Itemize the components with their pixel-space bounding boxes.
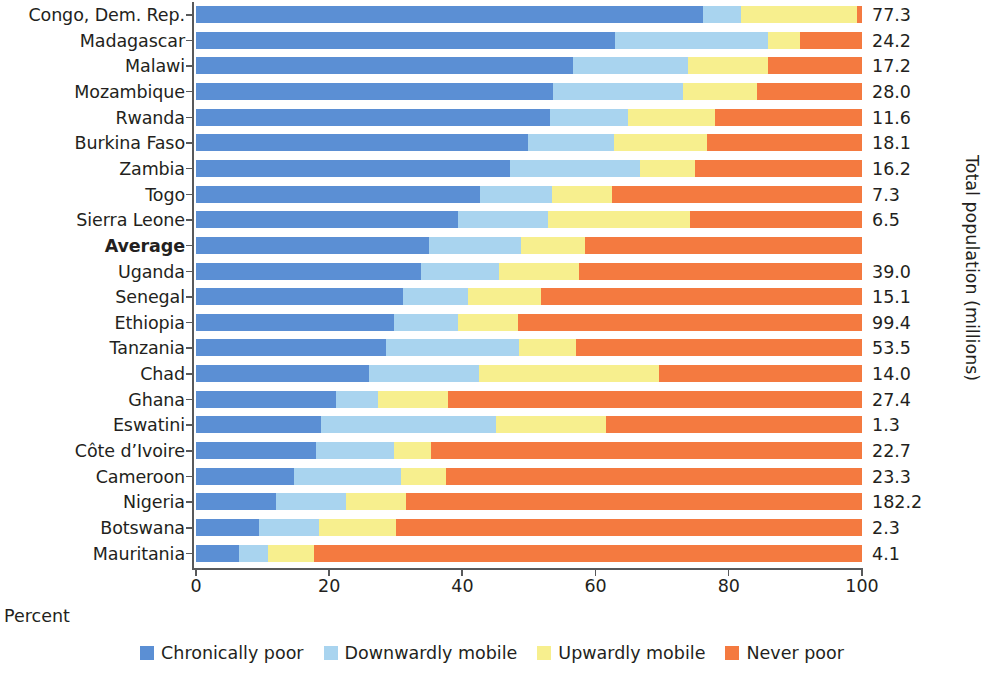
bar-segment-upwardly-mobile [401, 468, 446, 485]
chart-row: Zambia16.2 [0, 158, 984, 182]
bar-segment-upwardly-mobile [378, 391, 448, 408]
stacked-bar [196, 32, 862, 49]
legend-item[interactable]: Downwardly mobile [324, 643, 518, 663]
row-label: Chad [0, 366, 185, 384]
row-population-value: 17.2 [872, 58, 911, 76]
stacked-bar [196, 160, 862, 177]
bar-segment-never-poor [757, 83, 862, 100]
chart-row: Mozambique28.0 [0, 81, 984, 105]
stacked-bar [196, 468, 862, 485]
bar-segment-upwardly-mobile [346, 493, 406, 510]
bar-segment-downwardly-mobile [421, 263, 499, 280]
bar-segment-chronically-poor [196, 442, 316, 459]
row-label: Togo [0, 187, 185, 205]
row-population-value: 27.4 [872, 392, 911, 410]
row-population-value: 39.0 [872, 264, 911, 282]
chart-row: Burkina Faso18.1 [0, 132, 984, 156]
bar-segment-chronically-poor [196, 237, 429, 254]
row-label: Tanzania [0, 340, 185, 358]
row-population-value: 28.0 [872, 84, 911, 102]
bar-segment-chronically-poor [196, 186, 480, 203]
x-axis-tick [861, 568, 863, 576]
chart-row: Sierra Leone6.5 [0, 209, 984, 233]
y-axis-line [192, 2, 194, 569]
bar-segment-downwardly-mobile [294, 468, 401, 485]
bar-segment-downwardly-mobile [316, 442, 394, 459]
stacked-bar [196, 288, 862, 305]
bar-segment-never-poor [707, 134, 862, 151]
y-axis-right-title: Total population (millions) [962, 155, 982, 381]
row-population-value: 182.2 [872, 494, 922, 512]
bar-segment-upwardly-mobile [640, 160, 695, 177]
chart-row: Rwanda11.6 [0, 107, 984, 131]
chart-row: Chad14.0 [0, 363, 984, 387]
bar-segment-downwardly-mobile [615, 32, 768, 49]
chart-row: Malawi17.2 [0, 55, 984, 79]
bar-segment-upwardly-mobile [519, 339, 576, 356]
bar-segment-never-poor [695, 160, 862, 177]
bar-segment-chronically-poor [196, 32, 615, 49]
bar-segment-upwardly-mobile [768, 32, 800, 49]
bar-segment-downwardly-mobile [553, 83, 683, 100]
bar-segment-downwardly-mobile [394, 314, 458, 331]
stacked-bar [196, 391, 862, 408]
bar-segment-upwardly-mobile [468, 288, 541, 305]
bar-segment-never-poor [448, 391, 862, 408]
row-label: Madagascar [0, 33, 185, 51]
bar-segment-downwardly-mobile [403, 288, 468, 305]
bar-segment-never-poor [585, 237, 862, 254]
bar-segment-never-poor [396, 519, 862, 536]
bar-segment-downwardly-mobile [276, 493, 346, 510]
row-population-value: 7.3 [872, 187, 900, 205]
legend-item[interactable]: Chronically poor [140, 643, 304, 663]
chart-row: Botswana2.3 [0, 517, 984, 541]
row-label: Ghana [0, 392, 185, 410]
bar-segment-upwardly-mobile [548, 211, 690, 228]
square-swatch-icon [537, 646, 551, 660]
x-axis-tick [461, 568, 463, 576]
chart-row: Côte d’Ivoire22.7 [0, 440, 984, 464]
bar-segment-upwardly-mobile [741, 6, 856, 23]
bar-segment-chronically-poor [196, 6, 703, 23]
bar-segment-downwardly-mobile [429, 237, 521, 254]
bar-segment-downwardly-mobile [703, 6, 741, 23]
row-label: Zambia [0, 161, 185, 179]
bar-segment-chronically-poor [196, 545, 239, 562]
row-population-value: 18.1 [872, 135, 911, 153]
bar-segment-upwardly-mobile [499, 263, 579, 280]
legend-item[interactable]: Never poor [725, 643, 843, 663]
stacked-bar [196, 493, 862, 510]
legend-label: Never poor [746, 643, 843, 663]
bar-segment-chronically-poor [196, 160, 510, 177]
bar-segment-chronically-poor [196, 493, 276, 510]
bar-segment-upwardly-mobile [479, 365, 659, 382]
bar-segment-upwardly-mobile [614, 134, 707, 151]
chart-row: Eswatini1.3 [0, 414, 984, 438]
x-axis-tick-label: 100 [845, 578, 878, 596]
bar-segment-chronically-poor [196, 468, 294, 485]
bar-segment-never-poor [576, 339, 862, 356]
stacked-bar [196, 365, 862, 382]
bar-segment-never-poor [518, 314, 862, 331]
bar-segment-never-poor [606, 416, 862, 433]
legend-item[interactable]: Upwardly mobile [537, 643, 705, 663]
x-axis-tick-label: 40 [451, 578, 473, 596]
bar-segment-chronically-poor [196, 391, 336, 408]
row-population-value: 23.3 [872, 469, 911, 487]
chart-row: Ghana27.4 [0, 389, 984, 413]
row-population-value: 11.6 [872, 110, 911, 128]
bar-segment-chronically-poor [196, 83, 553, 100]
row-label: Mauritania [0, 546, 185, 564]
row-label: Ethiopia [0, 315, 185, 333]
bar-segment-upwardly-mobile [688, 57, 769, 74]
chart-row: Togo7.3 [0, 184, 984, 208]
row-label: Malawi [0, 58, 185, 76]
row-label: Sierra Leone [0, 212, 185, 230]
row-population-value: 2.3 [872, 520, 900, 538]
bar-segment-downwardly-mobile [386, 339, 519, 356]
stacked-bar [196, 6, 862, 23]
stacked-bar [196, 57, 862, 74]
stacked-bar [196, 186, 862, 203]
bar-segment-never-poor [579, 263, 862, 280]
bar-segment-chronically-poor [196, 416, 321, 433]
